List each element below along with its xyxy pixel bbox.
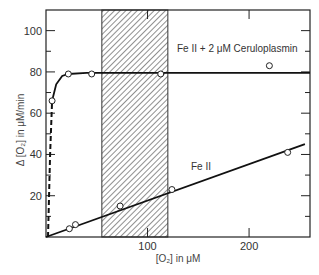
y-tick-label: 40 [30,148,42,160]
y-tick-label: 60 [30,107,42,119]
x-tick-label: 100 [138,240,156,252]
y-tick-label: 100 [24,25,42,37]
data-point [89,71,95,77]
data-point [266,63,272,69]
data-point [169,187,175,193]
y-tick-label: 20 [30,190,42,202]
data-point [66,226,72,232]
data-point [285,149,291,155]
x-tick-label: 200 [240,240,258,252]
x-axis-label: [O₂] in μM [156,253,201,264]
series-label-fe-ii: Fe II [191,161,211,172]
y-axis-label: Δ [O₂] in μM/min [15,94,26,166]
data-series [46,63,310,237]
series-label-ceruloplasmin: Fe II + 2 μM Ceruloplasmin [177,43,298,54]
shaded-region [102,10,168,237]
y-tick-label: 80 [30,66,42,78]
chart: 20406080100100200 [O₂] in μM Δ [O₂] in μ… [0,0,319,275]
fe-ii-line [46,144,305,237]
data-point [117,203,123,209]
data-point [65,71,71,77]
data-point [158,71,164,77]
data-point [72,222,78,228]
data-point [49,98,55,104]
